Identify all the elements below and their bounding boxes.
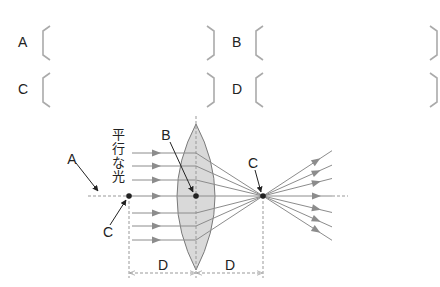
parallel-light-label: 平行な光 (112, 127, 125, 184)
lens-center-point (193, 193, 199, 199)
svg-text:な: な (112, 155, 125, 170)
label-d-left: D (158, 257, 168, 273)
pointer-arrow-c-right (255, 170, 261, 192)
label-a: A (67, 151, 77, 167)
label-d-right: D (225, 257, 235, 273)
convex-lens-diagram: A B C C D D 平行な光 (0, 0, 440, 287)
pointer-arrow-c-left (110, 200, 126, 225)
label-c-left: C (103, 224, 113, 240)
svg-text:光: 光 (112, 169, 125, 184)
focal-point-right (260, 193, 266, 199)
label-c-right: C (248, 155, 258, 171)
pointer-arrow-a (76, 163, 98, 191)
svg-text:行: 行 (112, 141, 125, 156)
light-rays (129, 150, 332, 244)
focal-point-left (126, 193, 132, 199)
label-b: B (161, 127, 170, 143)
svg-text:平: 平 (112, 127, 125, 142)
